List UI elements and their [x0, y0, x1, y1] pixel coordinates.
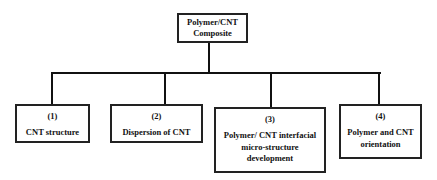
node-cnt-structure: (1) CNT structure: [15, 104, 90, 143]
node-label-line2: micro-structure: [238, 142, 301, 153]
horizontal-bus-connector: [51, 72, 381, 74]
node-label-line2: orientation: [357, 139, 403, 150]
root-node-polymer-cnt-composite: Polymer/CNT Composite: [177, 13, 248, 43]
drop-connector-2: [164, 72, 166, 105]
node-label: CNT structure: [23, 127, 82, 138]
drop-connector-4: [378, 72, 380, 105]
node-number: (4): [376, 111, 386, 122]
node-number: (2): [152, 111, 162, 122]
node-label: Dispersion of CNT: [119, 127, 193, 138]
node-label-line1: Polymer/ CNT interfacial: [221, 130, 319, 141]
root-node-label-line1: Polymer/CNT: [187, 17, 238, 28]
node-polymer-cnt-orientation: (4) Polymer and CNT orientation: [339, 104, 422, 159]
node-number: (3): [265, 114, 275, 125]
root-stem-connector: [208, 42, 210, 74]
node-interfacial-microstructure: (3) Polymer/ CNT interfacial micro-struc…: [214, 107, 326, 173]
node-dispersion-of-cnt: (2) Dispersion of CNT: [110, 104, 203, 143]
node-label-line3: development: [244, 153, 296, 164]
drop-connector-3: [270, 72, 272, 108]
node-number: (1): [48, 111, 58, 122]
node-label-line1: Polymer and CNT: [344, 127, 416, 138]
root-node-label-line2: Composite: [193, 28, 232, 39]
drop-connector-1: [51, 72, 53, 105]
